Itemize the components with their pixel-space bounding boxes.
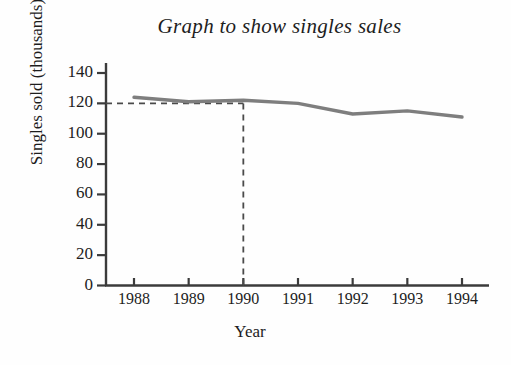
x-tick-label-1989: 1989 [160,290,218,308]
x-tick-label-1990: 1990 [214,290,272,308]
axes [105,63,489,286]
y-tick-label-120: 120 [43,92,93,112]
y-tick-label-100: 100 [43,123,93,143]
y-tick-label-60: 60 [43,183,93,203]
x-tick-label-1993: 1993 [378,290,436,308]
y-tick-label-40: 40 [43,214,93,234]
y-axis-ticks [97,73,106,286]
chart-figure: Graph to show singles sales Singles sold… [0,0,511,365]
y-tick-label-140: 140 [43,62,93,82]
x-tick-label-1988: 1988 [105,290,163,308]
y-tick-label-0: 0 [43,275,93,295]
x-tick-label-1992: 1992 [324,290,382,308]
x-tick-label-1991: 1991 [269,290,327,308]
guide-lines [106,103,243,285]
x-tick-label-1994: 1994 [433,290,491,308]
y-tick-label-20: 20 [43,244,93,264]
data-series-line [134,97,462,117]
y-tick-label-80: 80 [43,153,93,173]
